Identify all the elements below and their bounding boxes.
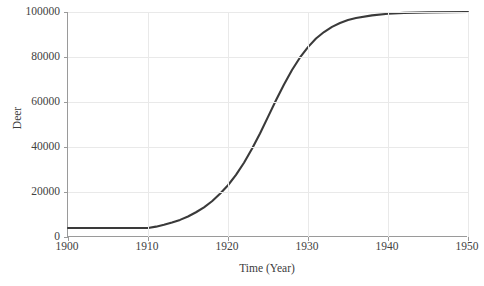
gridline-horizontal: [68, 102, 468, 103]
x-axis-label: Time (Year): [67, 262, 467, 274]
gridline-horizontal: [68, 12, 468, 13]
gridline-vertical: [228, 12, 229, 237]
y-tick-mark: [64, 192, 68, 193]
plot-area: [67, 12, 467, 237]
gridline-vertical: [468, 12, 469, 237]
gridline-vertical: [148, 12, 149, 237]
y-axis-label: Deer: [11, 88, 23, 148]
gridline-horizontal: [68, 192, 468, 193]
y-tick-label: 40000: [31, 141, 60, 153]
y-tick-mark: [64, 102, 68, 103]
series-line-deer: [68, 12, 468, 237]
chart-title: [0, 0, 484, 4]
y-tick-label: 60000: [31, 96, 60, 108]
y-tick-label: 100000: [26, 6, 61, 18]
y-tick-label: 20000: [31, 186, 60, 198]
y-tick-mark: [64, 57, 68, 58]
y-tick-mark: [64, 147, 68, 148]
gridline-vertical: [388, 12, 389, 237]
gridline-vertical: [308, 12, 309, 237]
x-tick-label: 1950: [437, 241, 484, 253]
x-tick-label: 1910: [117, 241, 177, 253]
x-tick-label: 1930: [277, 241, 337, 253]
y-tick-mark: [64, 12, 68, 13]
gridline-horizontal: [68, 147, 468, 148]
x-tick-label: 1940: [357, 241, 417, 253]
y-tick-label: 80000: [31, 51, 60, 63]
x-tick-label: 1920: [197, 241, 257, 253]
x-tick-label: 1900: [37, 241, 97, 253]
gridline-horizontal: [68, 57, 468, 58]
chart-figure: Deer Time (Year) 02000040000600008000010…: [0, 0, 484, 286]
